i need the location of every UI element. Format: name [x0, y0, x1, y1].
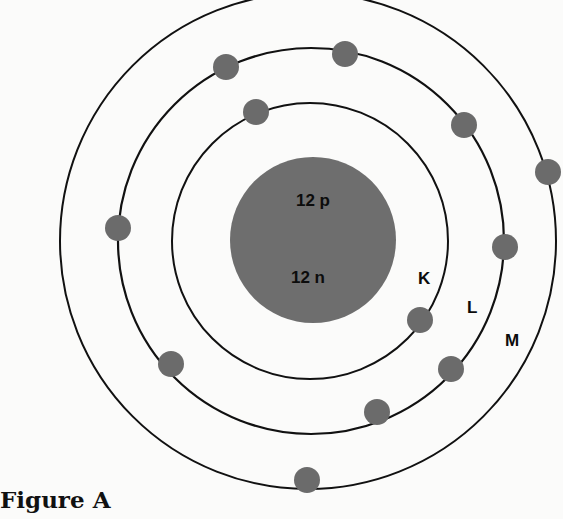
electron [451, 112, 477, 138]
electron [105, 215, 131, 241]
electron [438, 356, 464, 382]
electron [213, 54, 239, 80]
electron [332, 41, 358, 67]
electron [243, 99, 269, 125]
nucleus-neutrons-label: 12 n [291, 268, 325, 287]
shell-l-label: L [467, 298, 477, 317]
atom-diagram: 12 p 12 n K L M [0, 0, 563, 519]
nucleus [230, 157, 396, 323]
electron [294, 467, 320, 493]
shell-k-label: K [418, 269, 431, 288]
nucleus-protons-label: 12 p [296, 191, 330, 210]
shell-m-label: M [505, 331, 519, 350]
figure-caption: Figure A [0, 486, 110, 513]
electron [364, 399, 390, 425]
electron [535, 159, 561, 185]
electron [492, 234, 518, 260]
electron [158, 351, 184, 377]
electron [407, 307, 433, 333]
